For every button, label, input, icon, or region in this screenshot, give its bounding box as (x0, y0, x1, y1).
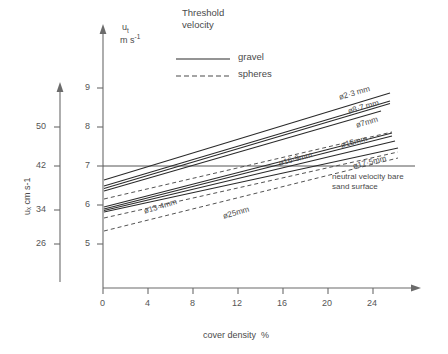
legend-item-gravel: gravel (238, 52, 264, 63)
xtick-4: 4 (145, 298, 150, 308)
primary-y-axis (97, 24, 106, 288)
secondary-y-axis-title: uₓ cm s-1 (22, 178, 32, 215)
y-primary-unit-exponent: -1 (135, 33, 141, 40)
ytick-primary-6: 6 (85, 199, 90, 209)
xtick-24: 24 (367, 298, 377, 308)
xtick-16: 16 (277, 298, 287, 308)
legend-item-spheres: spheres (238, 69, 272, 80)
secondary-y-axis (54, 82, 63, 282)
ytick-primary-7: 7 (85, 160, 90, 170)
chart-header-line2: velocity (182, 20, 214, 31)
x-axis-title: cover density % (203, 330, 269, 340)
x-axis (103, 285, 421, 294)
xtick-8: 8 (190, 298, 195, 308)
ytick-primary-8: 8 (85, 121, 90, 131)
ytick-secondary-34: 34 (36, 204, 46, 214)
chart-figure: Threshold velocity ut m s-1 uₓ cm s-1 gr… (0, 0, 448, 354)
neutral-velocity-note-line2: sand surface (332, 183, 378, 192)
ytick-secondary-50: 50 (36, 121, 46, 131)
ytick-primary-5: 5 (85, 238, 90, 248)
ytick-primary-9: 9 (85, 82, 90, 92)
neutral-velocity-note-line1: neutral velocity bare (332, 173, 404, 182)
xtick-0: 0 (100, 298, 105, 308)
xtick-12: 12 (232, 298, 242, 308)
legend-samples (176, 59, 230, 76)
ytick-secondary-42: 42 (36, 160, 46, 170)
primary-y-axis-unit: m s-1 (120, 33, 140, 45)
xtick-20: 20 (322, 298, 332, 308)
chart-header-line1: Threshold (182, 8, 224, 19)
y-primary-unit: m s (120, 35, 135, 45)
ytick-secondary-26: 26 (36, 238, 46, 248)
